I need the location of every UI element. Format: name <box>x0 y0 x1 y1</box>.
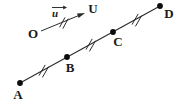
figure-canvas: u O U A B C D <box>0 0 177 105</box>
point-label-b: B <box>66 60 75 75</box>
point-label-a: A <box>13 87 23 102</box>
vector-shaft <box>41 15 81 31</box>
vector-u-label: u <box>52 7 58 19</box>
point-dot-a <box>17 80 23 86</box>
geometry-figure: u O U A B C D <box>0 0 177 105</box>
point-label-d: D <box>164 6 173 21</box>
point-dot-d <box>157 3 163 9</box>
vector-arrowhead <box>77 13 85 18</box>
vector-origin-label-o: O <box>28 26 38 41</box>
point-label-c: C <box>113 34 122 49</box>
tick-bc <box>86 39 96 52</box>
vector-tip-label-u: U <box>88 1 98 16</box>
